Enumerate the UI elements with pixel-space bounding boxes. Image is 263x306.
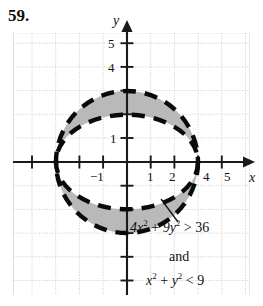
figure-root: 59. — [0, 0, 263, 306]
graph-svg — [0, 0, 263, 306]
inequality-two-annotation: x2 + y2 < 9 — [146, 274, 204, 288]
conjunction-annotation: and — [169, 249, 189, 265]
x-tick-label-neg1: −1 — [90, 170, 104, 183]
inequality-one-annotation: 4x2 + 9y2 > 36 — [130, 221, 209, 235]
x-tick-label-2: 2 — [169, 170, 176, 183]
x-tick-label-1: 1 — [147, 170, 154, 183]
y-tick-label-1: 1 — [110, 132, 117, 145]
y-tick-label-4: 4 — [108, 61, 115, 74]
x-tick-label-5: 5 — [224, 170, 231, 183]
x-tick-label-4: 4 — [203, 170, 210, 183]
y-tick-label-5: 5 — [108, 37, 115, 50]
x-axis-label: x — [249, 171, 255, 185]
y-axis-label: y — [113, 14, 119, 28]
coordinate-plane-graph: y x 5 4 1 −1 1 2 4 5 4x2 + 9y2 > 36 and … — [0, 0, 263, 306]
shaded-solution-region — [0, 0, 263, 306]
